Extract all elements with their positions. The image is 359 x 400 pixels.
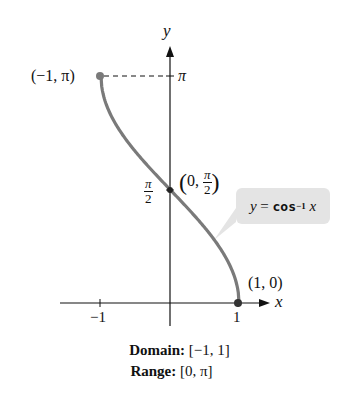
x-axis-label: x (275, 293, 283, 310)
callout-pointer (214, 208, 236, 240)
y-axis-label: y (163, 22, 171, 39)
point-label-neg1-pi: (−1, π) (31, 68, 75, 84)
y-tick-label-half-pi: π2 (144, 177, 153, 205)
y-axis-arrow (166, 46, 174, 57)
function-callout: y = cos−1 x (236, 188, 330, 224)
range-caption: Range: [0, π] (0, 363, 359, 380)
point-0-half-pi (167, 187, 173, 193)
point-1-0 (234, 299, 242, 307)
x-tick-label-1: 1 (233, 310, 241, 325)
point-label-0-half-pi: (0, π2) (179, 168, 220, 196)
point-neg1-pi (96, 72, 104, 80)
x-axis-arrow (259, 299, 270, 307)
domain-caption: Domain: [−1, 1] (0, 342, 359, 359)
point-label-1-0: (1, 0) (248, 275, 283, 291)
y-tick-label-pi: π (178, 68, 186, 84)
x-tick-label-neg1: −1 (90, 310, 106, 325)
